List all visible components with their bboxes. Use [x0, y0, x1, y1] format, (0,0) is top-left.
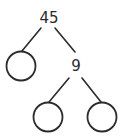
edge-root-left	[22, 28, 41, 51]
empty-answer-circle-left[interactable]	[7, 52, 36, 81]
factor-number: 9	[71, 57, 81, 75]
edge-nine-left	[49, 78, 69, 102]
factor-tree-diagram: 45 9	[0, 0, 123, 139]
edge-root-right	[55, 28, 75, 52]
root-number: 45	[39, 9, 58, 27]
empty-answer-circle-bottom-left[interactable]	[34, 103, 63, 132]
empty-answer-circle-bottom-right[interactable]	[88, 103, 117, 132]
edge-nine-right	[82, 78, 101, 102]
